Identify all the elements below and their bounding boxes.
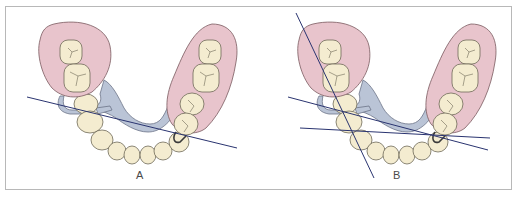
panel-a bbox=[27, 22, 237, 164]
dental-diagram bbox=[0, 0, 518, 198]
panel-label-b: B bbox=[393, 169, 400, 181]
panel-label-a: A bbox=[136, 169, 143, 181]
panel-b bbox=[288, 13, 496, 178]
